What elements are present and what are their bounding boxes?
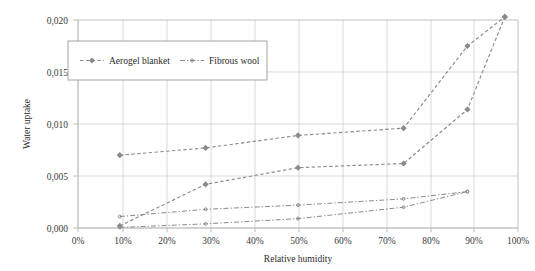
x-tick-label: 60% [334,236,352,246]
y-axis-tick-labels: 0,020 0,015 0,010 0,005 0,000 [47,16,69,234]
y-axis-title: Water uptake [22,99,32,149]
x-axis-title: Relative humidity [264,254,333,264]
y-tick-label: 0,005 [47,172,69,182]
y-tick-label: 0,010 [47,120,69,130]
x-tick-label: 50% [290,236,308,246]
y-tick-label: 0,000 [47,224,69,234]
x-tick-label: 90% [465,236,483,246]
legend-label-fibrous: Fibrous wool [209,56,260,66]
x-tick-label: 100% [507,236,529,246]
chart-figure: 0,020 0,015 0,010 0,005 0,000 0% 10% 20%… [0,0,535,271]
water-uptake-line-chart: 0,020 0,015 0,010 0,005 0,000 0% 10% 20%… [0,0,535,271]
y-tick-label: 0,020 [47,16,69,26]
data-point-marker [502,14,508,20]
x-tick-label: 40% [246,236,264,246]
x-tick-label: 80% [422,236,440,246]
legend-label-aerogel: Aerogel blanket [109,56,170,66]
y-tick-label: 0,015 [47,68,69,78]
x-axis-tick-marks [78,228,518,232]
x-axis-tick-labels: 0% 10% 20% 30% 40% 50% 60% 70% 80% 90% 1… [72,236,530,246]
x-tick-label: 70% [378,236,396,246]
x-tick-label: 30% [202,236,220,246]
x-tick-label: 20% [158,236,176,246]
chart-legend: Aerogel blanket Fibrous wool [68,41,267,80]
x-tick-label: 10% [114,236,132,246]
x-tick-label: 0% [72,236,85,246]
